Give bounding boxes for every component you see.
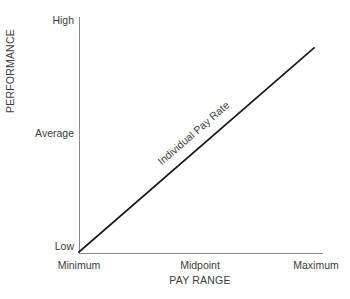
y-tick-label-low: Low	[55, 240, 74, 252]
chart-figure: High Average Low Minimum Midpoint Maximu…	[0, 0, 350, 299]
y-axis-title: PERFORMANCE	[4, 95, 104, 113]
y-tick-label-high: High	[52, 14, 74, 26]
series-annotation-individual-pay-rate: Individual Pay Rate	[155, 99, 231, 167]
x-tick-label-maximum: Maximum	[285, 259, 347, 271]
x-tick-label-midpoint: Midpoint	[165, 259, 235, 271]
individual-pay-rate-line	[79, 48, 314, 252]
x-axis-title: PAY RANGE	[140, 274, 260, 286]
y-tick-label-average: Average	[35, 127, 74, 139]
y-axis-line	[79, 17, 80, 254]
x-axis-line	[79, 253, 323, 254]
x-tick-label-minimum: Minimum	[44, 259, 114, 271]
